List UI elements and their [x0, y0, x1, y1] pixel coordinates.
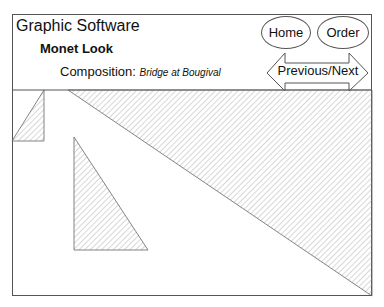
home-button-label: Home: [269, 25, 304, 40]
order-button[interactable]: Order: [317, 16, 369, 49]
previous-next-label: Previous/Next: [266, 63, 370, 78]
home-button[interactable]: Home: [261, 16, 311, 49]
order-button-label: Order: [326, 25, 359, 40]
composition-value: Bridge at Bougival: [140, 67, 221, 78]
composition-line: Composition: Bridge at Bougival: [60, 64, 221, 79]
previous-next-button[interactable]: Previous/Next: [266, 52, 370, 92]
style-title: Monet Look: [40, 41, 113, 56]
app-title: Graphic Software: [16, 17, 140, 35]
composition-label: Composition:: [60, 64, 136, 79]
